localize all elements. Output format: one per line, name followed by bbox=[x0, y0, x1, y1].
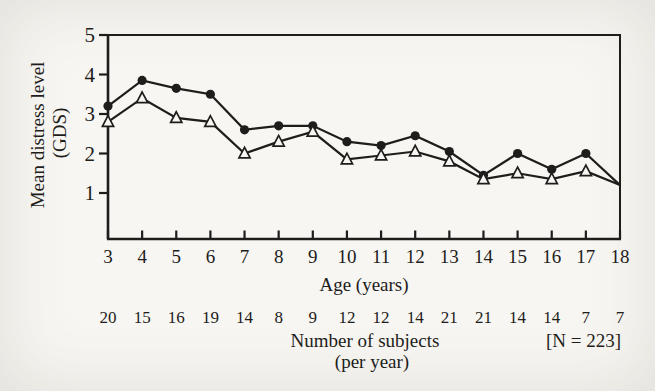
x-axis-title: Age (years) bbox=[319, 274, 408, 296]
x-tick-label: 3 bbox=[103, 246, 113, 267]
subject-count: 15 bbox=[134, 308, 151, 327]
y-tick-label: 5 bbox=[85, 23, 96, 47]
data-point-triangle bbox=[102, 116, 113, 127]
data-point-triangle bbox=[512, 167, 523, 178]
subject-count: 8 bbox=[274, 308, 283, 327]
subject-count: 16 bbox=[168, 308, 185, 327]
subject-count: 7 bbox=[582, 308, 591, 327]
data-point-circle bbox=[103, 102, 112, 111]
y-axis-title-line1: Mean distress level bbox=[27, 62, 48, 209]
x-tick-label: 6 bbox=[206, 246, 216, 267]
x-tick-label: 17 bbox=[576, 246, 595, 267]
x-tick-label: 14 bbox=[474, 246, 494, 267]
y-tick-label: 3 bbox=[85, 102, 96, 126]
x-tick-label: 11 bbox=[372, 246, 390, 267]
subject-count: 12 bbox=[373, 308, 390, 327]
subjects-caption-line2: (per year) bbox=[335, 351, 409, 373]
data-point-circle bbox=[513, 149, 522, 158]
data-point-circle bbox=[411, 131, 420, 140]
series-line-upper-series-filled-circles bbox=[108, 80, 620, 185]
subject-count: 7 bbox=[616, 308, 625, 327]
x-tick-label: 9 bbox=[308, 246, 318, 267]
data-point-circle bbox=[138, 76, 147, 85]
x-tick-label: 16 bbox=[542, 246, 561, 267]
x-tick-label: 10 bbox=[337, 246, 356, 267]
data-point-circle bbox=[342, 137, 351, 146]
y-axis-title: Mean distress level (GDS) bbox=[27, 62, 71, 209]
data-point-circle bbox=[172, 84, 181, 93]
subject-count: 12 bbox=[338, 308, 355, 327]
subject-count: 14 bbox=[236, 308, 254, 327]
x-tick-label: 4 bbox=[137, 246, 147, 267]
y-tick-label: 1 bbox=[85, 181, 96, 205]
data-point-triangle bbox=[580, 165, 591, 176]
data-point-circle bbox=[274, 121, 283, 130]
data-point-triangle bbox=[410, 145, 421, 156]
y-tick-label: 4 bbox=[85, 63, 96, 87]
y-tick-label: 2 bbox=[85, 142, 96, 166]
data-point-circle bbox=[206, 90, 215, 99]
n-total-label: [N = 223] bbox=[546, 330, 621, 351]
x-tick-label: 12 bbox=[406, 246, 425, 267]
subject-count: 20 bbox=[100, 308, 117, 327]
subject-count: 21 bbox=[441, 308, 458, 327]
subject-count: 19 bbox=[202, 308, 219, 327]
x-tick-label: 15 bbox=[508, 246, 527, 267]
x-tick-label: 5 bbox=[172, 246, 182, 267]
subject-count: 14 bbox=[407, 308, 425, 327]
plot-frame bbox=[108, 35, 620, 239]
subject-count: 21 bbox=[475, 308, 492, 327]
subject-count: 14 bbox=[543, 308, 561, 327]
data-point-circle bbox=[240, 125, 249, 134]
series-line-lower-series-open-triangles bbox=[108, 98, 620, 185]
x-tick-label: 7 bbox=[240, 246, 250, 267]
x-tick-label: 18 bbox=[611, 246, 630, 267]
data-point-triangle bbox=[171, 112, 182, 123]
x-tick-label: 8 bbox=[274, 246, 284, 267]
subjects-caption-line1: Number of subjects bbox=[291, 330, 440, 351]
y-axis-title-line2: (GDS) bbox=[49, 108, 71, 159]
subject-count: 14 bbox=[509, 308, 527, 327]
data-point-circle bbox=[581, 149, 590, 158]
subject-count: 9 bbox=[309, 308, 318, 327]
data-point-triangle bbox=[137, 92, 148, 103]
figure-canvas: 1234532041551661971488991012111212141321… bbox=[0, 0, 655, 391]
x-tick-label: 13 bbox=[440, 246, 459, 267]
scanned-figure-page: 1234532041551661971488991012111212141321… bbox=[0, 0, 655, 391]
